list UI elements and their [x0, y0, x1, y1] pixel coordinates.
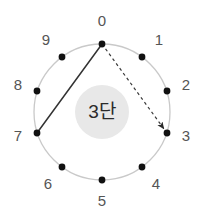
node-dot-6[interactable] — [59, 164, 66, 171]
node-label-2: 2 — [182, 76, 190, 93]
node-dot-1[interactable] — [139, 54, 146, 61]
node-label-8: 8 — [14, 76, 22, 93]
node-dot-7[interactable] — [34, 130, 41, 137]
node-dot-8[interactable] — [34, 88, 41, 95]
node-dot-0[interactable] — [99, 41, 106, 48]
center-label: 3단 — [88, 101, 116, 122]
node-label-4: 4 — [152, 175, 160, 192]
node-dot-2[interactable] — [164, 88, 171, 95]
node-label-5: 5 — [98, 192, 106, 209]
node-label-0: 0 — [98, 12, 106, 29]
node-label-6: 6 — [44, 175, 52, 192]
circle-diagram: 3단 0 1 2 3 4 5 6 7 8 9 — [0, 0, 202, 223]
diagram-canvas: 3단 0 1 2 3 4 5 6 7 8 9 — [0, 0, 202, 223]
node-label-3: 3 — [182, 127, 190, 144]
node-dot-5[interactable] — [99, 177, 106, 184]
node-label-7: 7 — [14, 127, 22, 144]
node-dot-9[interactable] — [59, 54, 66, 61]
node-dot-4[interactable] — [139, 164, 146, 171]
node-label-1: 1 — [155, 31, 163, 48]
node-dot-3[interactable] — [164, 130, 171, 137]
node-label-9: 9 — [42, 31, 50, 48]
